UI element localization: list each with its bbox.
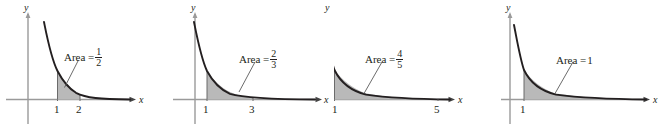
x-axis-label: x — [653, 95, 657, 105]
area-annotation: Area = 1 2 — [64, 47, 102, 68]
panel-2: y x 1 3 Area = 2 3 — [167, 0, 334, 128]
x-tick-label-2: 2 — [76, 104, 82, 115]
area-annotation: Area = 1 — [556, 55, 593, 66]
area-fraction-numerator: 1 — [95, 47, 102, 57]
x-axis-label: x — [139, 95, 143, 105]
area-annotation: Area = 4 5 — [365, 49, 403, 70]
area-fraction: 2 3 — [270, 49, 277, 70]
y-axis-label: y — [325, 3, 329, 13]
area-annotation-text: Area = — [239, 54, 269, 65]
x-axis-label: x — [324, 95, 328, 105]
x-tick-label-2: 3 — [249, 104, 255, 115]
x-tick-label-1: 1 — [203, 104, 209, 115]
area-value: 1 — [587, 55, 593, 66]
area-fraction: 4 5 — [396, 49, 403, 70]
y-axis-label: y — [191, 3, 195, 13]
area-annotation-text: Area = — [365, 54, 395, 65]
x-tick-label-2: 5 — [434, 104, 440, 115]
shaded-region — [207, 71, 253, 100]
area-annotation-text: Area = — [64, 52, 94, 63]
panel-3-plot — [334, 0, 501, 128]
x-tick-label-1: 1 — [520, 104, 526, 115]
area-fraction: 1 2 — [95, 47, 102, 68]
x-axis-arrow-icon — [316, 97, 323, 102]
panel-4: y x 1 Area = 1 — [501, 0, 667, 128]
leader-line — [555, 62, 573, 94]
panel-1: y x 1 2 Area = 1 2 — [0, 0, 167, 128]
panel-3: y x 1 5 Area = 4 5 — [334, 0, 501, 128]
shaded-region — [524, 70, 647, 100]
area-annotation: Area = 2 3 — [239, 49, 277, 70]
figure-container: y x 1 2 Area = 1 2 y x 1 3 — [0, 0, 667, 128]
x-tick-label-1: 1 — [54, 104, 60, 115]
y-axis-label: y — [506, 3, 510, 13]
area-fraction-denominator: 3 — [270, 59, 277, 70]
shaded-region — [335, 70, 439, 100]
y-axis-label: y — [24, 3, 28, 13]
area-annotation-text: Area = — [556, 55, 586, 66]
x-axis-label: x — [458, 95, 462, 105]
area-fraction-numerator: 2 — [270, 49, 277, 59]
area-fraction-denominator: 5 — [396, 59, 403, 70]
area-fraction-denominator: 2 — [95, 57, 102, 68]
x-tick-label-1: 1 — [332, 104, 338, 115]
area-fraction-numerator: 4 — [396, 49, 403, 59]
